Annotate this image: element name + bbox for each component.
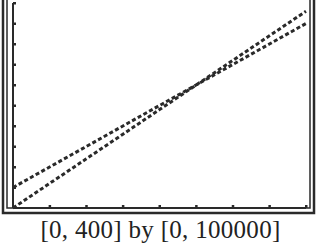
y-tick [13, 105, 16, 108]
x-tick [122, 205, 125, 208]
x-tick [232, 205, 235, 208]
y-tick [13, 43, 16, 46]
graph-line-2 [13, 11, 306, 208]
y-tick [13, 125, 16, 128]
calculator-graph-screen [0, 0, 321, 215]
screen-frame [3, 0, 314, 213]
plot-lines [13, 11, 306, 208]
x-tick [85, 205, 88, 208]
y-tick [13, 2, 16, 5]
y-tick [13, 84, 16, 87]
window-caption: [0, 400] by [0, 100000] [0, 216, 321, 244]
y-tick [13, 146, 16, 149]
y-tick [13, 166, 16, 169]
y-tick [13, 64, 16, 67]
x-tick [305, 205, 308, 208]
y-tick [13, 23, 16, 26]
x-tick [268, 205, 271, 208]
x-tick [195, 205, 198, 208]
x-tick [49, 205, 52, 208]
x-tick [159, 205, 162, 208]
graph-line-1 [13, 24, 306, 188]
